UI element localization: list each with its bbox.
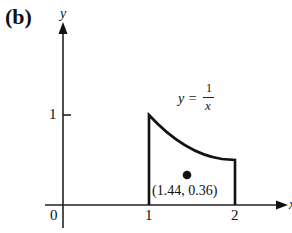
y-axis-arrow-icon xyxy=(59,22,68,34)
centroid-label: (1.44, 0.36) xyxy=(152,184,217,198)
curve-label-numerator: 1 xyxy=(206,82,212,94)
x-axis-arrow-icon xyxy=(276,201,288,210)
origin-label: 0 xyxy=(50,208,58,223)
x-tick-label-1: 1 xyxy=(145,208,153,223)
curve-label-denominator: x xyxy=(205,99,211,112)
centroid-dot xyxy=(183,171,192,180)
x-tick-label-2: 2 xyxy=(231,208,239,223)
x-axis-label: x xyxy=(289,198,292,212)
plot-area xyxy=(0,0,292,233)
y-tick-label-1: 1 xyxy=(49,107,57,122)
y-axis-label: y xyxy=(60,7,66,21)
curve-label-lhs: y = xyxy=(178,92,197,106)
